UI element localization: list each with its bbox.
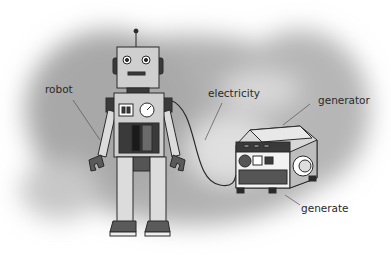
label-robot: robot bbox=[45, 83, 73, 95]
cloud-background bbox=[20, 30, 370, 225]
label-generator: generator bbox=[318, 94, 370, 106]
label-generate: generate bbox=[301, 202, 349, 214]
robot-generator-illustration: robot electricity generator generate bbox=[0, 0, 391, 256]
illustration-canvas bbox=[0, 0, 391, 256]
generator bbox=[236, 126, 317, 193]
label-electricity: electricity bbox=[208, 87, 260, 99]
